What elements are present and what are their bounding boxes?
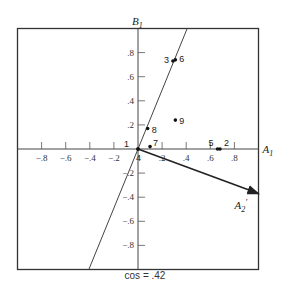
x-axis-label: A1 (262, 143, 274, 158)
y-tick-label: .6 (127, 72, 134, 82)
data-point-8 (146, 127, 150, 131)
x-tick-label: −.6 (60, 153, 72, 163)
vector-label: A2′ (234, 197, 249, 214)
x-tick-label: .4 (183, 153, 190, 163)
x-tick-label: −.2 (108, 153, 120, 163)
point-label-3: 3 (164, 55, 169, 65)
point-label-9: 9 (179, 116, 184, 126)
x-tick-label: .6 (207, 153, 214, 163)
data-point-9 (174, 118, 178, 122)
y-tick-label: .4 (127, 96, 134, 106)
y-tick-label: −.4 (122, 192, 134, 202)
factor-rotation-plot: −.8−.6−.4−.2.2.4.6.8.8.6.4.2−.2−.4−.6−.8… (0, 0, 290, 300)
point-label-4: 4 (136, 153, 141, 163)
y-tick-label: .8 (127, 48, 134, 58)
point-label-2: 2 (224, 138, 229, 148)
vector-a2-prime (138, 149, 259, 194)
data-point-6 (174, 58, 178, 62)
point-label-5: 5 (209, 138, 214, 148)
cosine-caption: cos = .42 (0, 270, 290, 281)
point-label-1: 1 (124, 139, 129, 149)
x-tick-label: .8 (231, 153, 238, 163)
y-tick-label: −.8 (122, 240, 134, 250)
x-tick-label: −.8 (36, 153, 48, 163)
data-point-4 (136, 147, 140, 151)
y-tick-label: −.6 (122, 216, 134, 226)
point-label-8: 8 (152, 125, 157, 135)
point-label-7: 7 (153, 138, 158, 148)
y-tick-label: .2 (127, 120, 134, 130)
x-tick-label: −.4 (84, 153, 96, 163)
point-label-6: 6 (179, 54, 184, 64)
data-point-5 (216, 147, 220, 151)
data-point-7 (148, 145, 152, 149)
y-axis-label: B1 (132, 15, 143, 30)
